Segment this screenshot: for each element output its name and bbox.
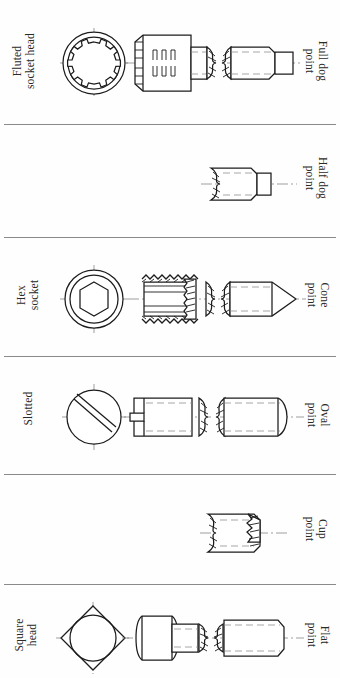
point-oval xyxy=(224,380,304,454)
head-label-row-4: Slotted xyxy=(22,367,35,451)
point-label-row-4: Oval point xyxy=(305,373,331,457)
head-label-row-6: Square head xyxy=(13,593,39,677)
row-divider xyxy=(4,584,336,585)
head-label-row-1: Fluted socket head xyxy=(11,19,37,103)
point-label-row-5: Cup point xyxy=(303,487,329,571)
row-divider xyxy=(4,356,336,357)
point-cup xyxy=(202,496,288,570)
table-row: Half dog point xyxy=(0,125,340,238)
body-socket-cap-head xyxy=(129,22,209,104)
table-row: Square head xyxy=(0,586,340,678)
table-row: Cup point xyxy=(0,476,340,586)
point-full-dog xyxy=(231,22,303,104)
point-label-row-6: Flat point xyxy=(305,593,331,677)
head-label-row-3: Hex socket xyxy=(15,253,41,337)
point-half-dog xyxy=(205,145,297,223)
point-label-row-2: Half dog point xyxy=(303,136,329,220)
table-row: Hex socket xyxy=(0,238,340,358)
row-divider xyxy=(4,474,336,475)
end-view-square-head xyxy=(56,600,130,676)
end-view-hex-socket xyxy=(60,260,128,338)
table-row: Slotted xyxy=(0,358,340,476)
table-row: Fluted socket head xyxy=(0,0,340,125)
figure-plate: Fluted socket head xyxy=(0,0,340,678)
point-cone xyxy=(230,260,306,338)
end-view-fluted-socket xyxy=(58,22,130,104)
end-view-slotted xyxy=(62,380,126,454)
point-flat xyxy=(224,600,304,676)
point-label-row-3: Cone point xyxy=(305,253,331,337)
point-label-row-1: Full dog point xyxy=(303,19,329,103)
